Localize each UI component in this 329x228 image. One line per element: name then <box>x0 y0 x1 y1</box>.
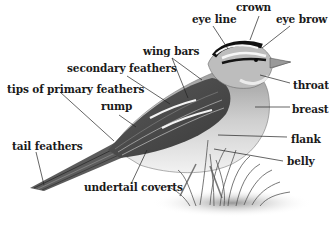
beak-shape <box>270 58 291 68</box>
label-undertail-coverts: undertail coverts <box>84 182 183 193</box>
label-throat: throat <box>293 80 329 91</box>
label-crown: crown <box>236 2 271 13</box>
label-belly: belly <box>287 156 315 167</box>
label-eye-line: eye line <box>192 14 237 25</box>
label-eye-brow: eye brow <box>276 14 327 25</box>
label-tips-of-primary-feathers: tips of primary feathers <box>7 84 144 95</box>
label-breast: breast <box>292 104 329 115</box>
label-secondary-feathers: secondary feathers <box>67 63 177 74</box>
label-wing-bars: wing bars <box>143 46 199 57</box>
label-tail-feathers: tail feathers <box>12 141 83 152</box>
label-rump: rump <box>101 101 132 112</box>
label-flank: flank <box>291 134 321 145</box>
ground-shadow <box>152 189 312 217</box>
